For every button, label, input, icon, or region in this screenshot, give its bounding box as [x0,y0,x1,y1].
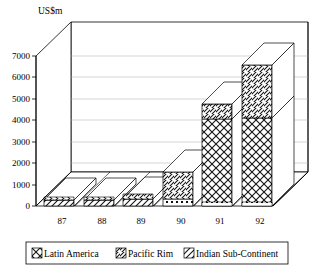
bar-segment-indian-89[interactable] [123,199,153,206]
y-tick-label: 2000 [12,158,31,168]
bar-segment-pacific-90[interactable] [163,172,193,199]
y-tick-group-5000: 5000 [12,94,36,104]
y-tick-group-6000: 6000 [12,72,36,82]
y-tick-label: 0 [26,201,31,211]
bar-segment-latin-91[interactable] [202,119,232,206]
bar-segment-indian-87[interactable] [44,200,74,206]
x-tick-label: 91 [216,216,225,226]
y-tick-group-1000: 1000 [12,180,36,190]
y-tick-label: 6000 [12,72,31,82]
legend-label: Pacific Rim [128,249,174,259]
y-tick-label: 3000 [12,137,31,147]
y-tick-label: 5000 [12,94,31,104]
bar-segment-indian-88[interactable] [84,200,114,206]
y-tick-group-4000: 4000 [12,115,36,125]
y-tick-group-2000: 2000 [12,158,36,168]
y-tick-label: 4000 [12,115,31,125]
y-tick-group-0: 0 [26,201,37,211]
diagonal-forward-swatch-icon [116,248,126,258]
bar-segment-pacific-87[interactable] [44,197,74,200]
legend-item-indian-sub-continent[interactable]: Indian Sub-Continent [184,248,278,259]
bar-segment-latin-92[interactable] [242,118,272,206]
legend-item-pacific-rim[interactable]: Pacific Rim [116,248,174,259]
bar-segment-indian-90[interactable] [163,199,193,206]
bar-segment-indian-92[interactable] [242,202,272,206]
bar-segment-pacific-89[interactable] [123,194,153,199]
y-axis-title: US$m [38,6,63,16]
bar-segment-pacific-88[interactable] [84,197,114,200]
legend: Latin America Pacific Rim Indian Sub-Con… [26,242,288,264]
legend-label: Latin America [44,249,99,259]
cross-hatch-swatch-icon [32,248,42,258]
y-tick-label: 1000 [12,180,31,190]
x-tick-label: 92 [256,216,265,226]
x-axis: 87 88 89 90 91 92 [58,216,265,226]
x-tick-label: 89 [137,216,147,226]
x-tick-label: 88 [98,216,108,226]
y-tick-group-7000: 7000 [12,51,36,61]
bar-group-92[interactable] [242,43,294,206]
bar-chart-3d: 7000 6000 5000 4000 3000 2000 [0,0,314,273]
legend-item-latin-america[interactable]: Latin America [32,248,99,259]
x-tick-label: 87 [58,216,68,226]
x-tick-label: 90 [177,216,187,226]
y-tick-label: 7000 [12,51,31,61]
diagonal-back-swatch-icon [184,248,194,258]
y-tick-group-3000: 3000 [12,137,36,147]
legend-label: Indian Sub-Continent [196,249,278,259]
bar-segment-pacific-91[interactable] [202,104,232,119]
bar-segment-pacific-92[interactable] [242,65,272,118]
chart-container: 7000 6000 5000 4000 3000 2000 [0,0,314,273]
bar-segment-indian-91[interactable] [202,202,232,206]
